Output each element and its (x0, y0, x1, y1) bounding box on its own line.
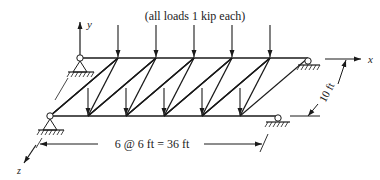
y-axis-label: y (86, 18, 92, 30)
depth-dimension-label: 10 ft (316, 80, 336, 104)
truss-members (50, 58, 308, 116)
z-axis-label: z (16, 165, 21, 176)
truss-diagonal (202, 58, 270, 116)
z-axis (24, 145, 36, 163)
truss-diagonal (164, 58, 232, 116)
space-truss-diagram: (all loads 1 kip each) y x z (0, 0, 380, 180)
truss-member (88, 58, 118, 116)
truss-member (202, 58, 232, 116)
truss-diagonal (183, 58, 232, 116)
span-dimension-label: 6 @ 6 ft = 36 ft (115, 137, 190, 151)
truss-diagonal (221, 58, 270, 116)
truss-member (240, 58, 270, 116)
right-dim-extension (260, 134, 268, 152)
truss-member (126, 58, 156, 116)
x-axis-label: x (367, 53, 373, 65)
left-dim-extension (36, 138, 42, 148)
left-width-guide (55, 78, 68, 100)
truss-diagonal (88, 58, 156, 116)
truss-diagonal (107, 58, 156, 116)
truss-diagonal (145, 58, 194, 116)
depth-dimension-arrow-top (338, 60, 346, 84)
depth-dimension-arrow-bottom (308, 104, 318, 116)
truss-diagonal (240, 58, 308, 116)
loads-caption: (all loads 1 kip each) (145, 9, 246, 23)
truss-member (164, 58, 194, 116)
truss-diagonal (126, 58, 194, 116)
